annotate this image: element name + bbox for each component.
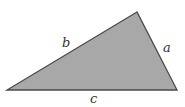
- side-label-c: c: [90, 92, 97, 105]
- side-label-b: b: [62, 36, 70, 49]
- side-label-a: a: [163, 41, 171, 54]
- triangle-shape: [7, 12, 177, 90]
